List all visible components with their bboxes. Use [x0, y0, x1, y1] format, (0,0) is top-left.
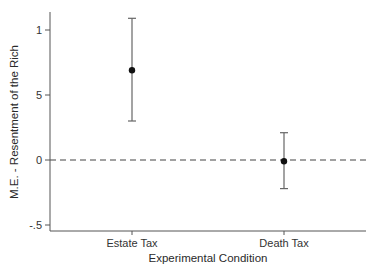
point-estimate-marker [281, 158, 287, 164]
x-tick-label: Death Tax [259, 237, 309, 249]
point-estimate-marker [129, 67, 135, 73]
y-tick-label: 5 [36, 89, 42, 101]
y-tick-label: 0 [36, 154, 42, 166]
chart: 150-.5 Estate TaxDeath Tax M.E. - Resent… [0, 0, 376, 274]
y-tick-label: -.5 [29, 219, 42, 231]
y-axis-title: M.E. - Resentment of the Rich [8, 45, 20, 199]
x-axis: Estate TaxDeath Tax [50, 231, 366, 249]
plot-area [50, 18, 366, 188]
x-axis-title: Experimental Condition [149, 252, 268, 264]
y-axis: 150-.5 [29, 12, 50, 231]
y-tick-label: 1 [36, 24, 42, 36]
x-tick-label: Estate Tax [106, 237, 158, 249]
